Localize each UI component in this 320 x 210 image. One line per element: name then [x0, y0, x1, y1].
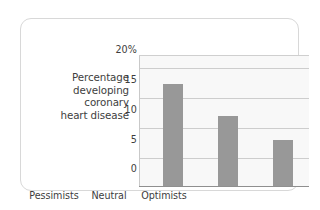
- bar-neutral: [218, 116, 238, 186]
- x-axis-tick-pessimists: Pessimists: [29, 190, 78, 201]
- y-axis-tick-10: 10: [111, 104, 137, 115]
- plot-area: [139, 55, 309, 186]
- x-axis-tick-optimists: Optimists: [141, 190, 186, 201]
- x-axis-tick-neutral: Neutral: [91, 190, 126, 201]
- bar-pessimists: [163, 84, 183, 186]
- y-axis-label-line-2: developing: [47, 84, 129, 97]
- y-axis-tick-20: 20%: [111, 44, 137, 55]
- y-axis-tick-5: 5: [111, 134, 137, 145]
- y-axis-tick-0: 0: [111, 163, 137, 174]
- gridline-20: [140, 68, 309, 69]
- y-axis-tick-15: 15: [111, 74, 137, 85]
- figure-card: Percentage developing coronary heart dis…: [20, 18, 299, 191]
- bar-optimists: [273, 140, 293, 186]
